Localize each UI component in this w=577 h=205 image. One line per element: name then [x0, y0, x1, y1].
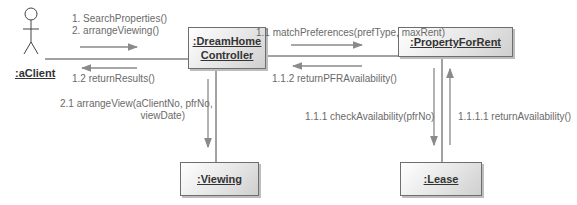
actor-label: :aClient — [15, 67, 55, 79]
message-arrange-viewing: 2. arrangeViewing() — [72, 25, 159, 37]
object-label: :Viewing — [197, 172, 242, 186]
message-return-availability: 1.1.1.1 returnAvailability() — [458, 111, 571, 123]
message-check-availability: 1.1.1 checkAvailability(pfrNo) — [305, 111, 434, 123]
message-return-pfr-availability: 1.1.2 returnPFRAvailability() — [272, 73, 397, 85]
object-dreamhome-controller[interactable]: :DreamHome Controller — [188, 27, 266, 69]
object-viewing[interactable]: :Viewing — [180, 162, 259, 196]
message-return-results: 1.2 returnResults() — [72, 73, 155, 85]
message-arrange-view-line2: viewDate) — [60, 110, 185, 122]
object-lease[interactable]: :Lease — [400, 162, 482, 196]
object-label: :Lease — [424, 172, 459, 186]
message-match-preferences: 1.1 matchPreferences(prefType, maxRent) — [256, 27, 445, 39]
object-label: :DreamHome Controller — [193, 34, 261, 62]
message-arrange-view-line1: 2.1 arrangeView(aClientNo, pfrNo, — [60, 98, 200, 110]
actor-icon — [23, 8, 39, 54]
message-search-properties: 1. SearchProperties() — [72, 13, 167, 25]
